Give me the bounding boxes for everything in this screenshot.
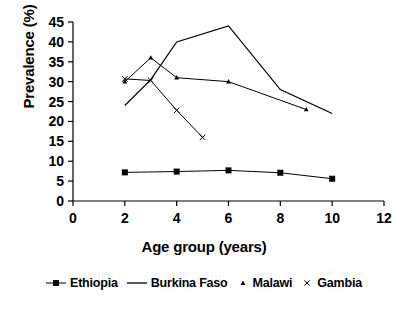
y-tick-label: 35 [48, 54, 64, 70]
legend-item-gambia: Gambia [301, 276, 362, 290]
legend-label-burkina-faso: Burkina Faso [151, 276, 228, 290]
data-point-marker [174, 169, 180, 175]
data-point-marker [277, 170, 283, 176]
prevalence-by-age-chart: Prevalence (%) 0510152025303540450246810… [0, 0, 408, 312]
data-point-marker [122, 169, 128, 175]
x-tick-label: 0 [69, 210, 77, 226]
legend-label-ethiopia: Ethiopia [70, 276, 118, 290]
x-tick-label: 4 [173, 210, 181, 226]
x-tick-label: 10 [324, 210, 340, 226]
triangle-marker-icon [237, 278, 249, 288]
y-tick-label: 0 [56, 193, 64, 209]
data-point-marker [329, 176, 335, 182]
x-tick-label: 2 [121, 210, 129, 226]
y-tick-label: 15 [48, 133, 64, 149]
chart-legend: Ethiopia Burkina Faso Malawi [0, 276, 408, 290]
legend-item-ethiopia: Ethiopia [46, 276, 118, 290]
legend-label-malawi: Malawi [253, 276, 293, 290]
series-line-burkina-faso [125, 26, 332, 114]
y-tick-label: 5 [56, 173, 64, 189]
data-point-marker [148, 55, 153, 59]
legend-label-gambia: Gambia [317, 276, 362, 290]
series-line-malawi [125, 58, 306, 110]
square-line-marker-icon [46, 278, 66, 288]
y-tick-label: 45 [48, 14, 64, 30]
data-point-marker [174, 75, 179, 79]
y-tick-label: 30 [48, 74, 64, 90]
y-tick-label: 25 [48, 94, 64, 110]
y-tick-label: 10 [48, 153, 64, 169]
x-tick-label: 6 [225, 210, 233, 226]
legend-item-malawi: Malawi [237, 276, 293, 290]
x-axis-title: Age group (years) [0, 238, 408, 255]
x-tick-label: 12 [376, 210, 392, 226]
series-line-gambia [125, 79, 203, 137]
x-tick-label: 8 [276, 210, 284, 226]
legend-item-burkina-faso: Burkina Faso [127, 276, 228, 290]
y-tick-label: 20 [48, 113, 64, 129]
plot-area: 051015202530354045024681012 [0, 0, 408, 312]
plain-line-marker-icon [127, 278, 147, 288]
data-point-marker [226, 167, 232, 173]
y-tick-label: 40 [48, 34, 64, 50]
cross-marker-icon [301, 278, 313, 288]
